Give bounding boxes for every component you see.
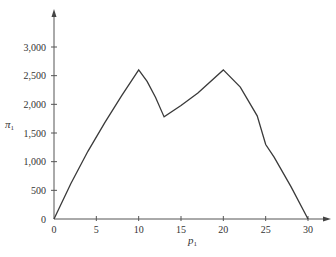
x-axis-label: p1 (187, 234, 198, 248)
y-ticks: 05001,0001,5002,0002,5003,000 (24, 42, 58, 225)
y-axis-label: π1 (5, 118, 15, 132)
x-tick-label: 10 (134, 224, 144, 235)
y-tick-label: 500 (31, 185, 46, 196)
y-axis-arrow-icon (52, 9, 57, 17)
x-axis (54, 217, 331, 222)
y-tick-label: 2,000 (24, 99, 47, 110)
profit-chart: 05001,0001,5002,0002,5003,000 0510152025… (0, 0, 336, 257)
y-tick-label: 2,500 (24, 70, 47, 81)
x-tick-label: 25 (261, 224, 271, 235)
x-tick-label: 30 (303, 224, 313, 235)
x-tick-label: 20 (218, 224, 228, 235)
x-tick-label: 15 (176, 224, 186, 235)
y-tick-label: 1,500 (24, 128, 47, 139)
y-tick-label: 0 (41, 214, 46, 225)
y-tick-label: 1,000 (24, 156, 47, 167)
y-tick-label: 3,000 (24, 42, 47, 53)
y-axis (52, 9, 57, 219)
x-axis-arrow-icon (323, 217, 331, 222)
x-tick-label: 0 (52, 224, 57, 235)
x-tick-label: 5 (94, 224, 99, 235)
profit-curve (54, 70, 308, 219)
